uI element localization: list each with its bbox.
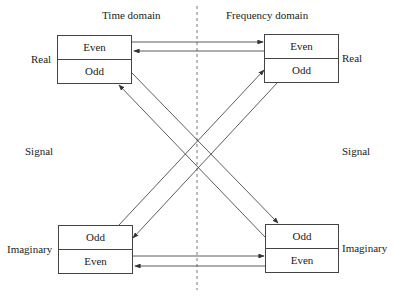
time-real-box: Even Odd xyxy=(57,35,132,84)
freq-real-box: Even Odd xyxy=(264,34,339,83)
time-domain-header: Time domain xyxy=(102,10,161,21)
left-signal-label: Signal xyxy=(25,146,53,157)
time-real-even: Even xyxy=(58,36,131,60)
freq-real-even: Even xyxy=(265,35,338,59)
freq-imag-even: Even xyxy=(266,249,338,273)
right-signal-label: Signal xyxy=(342,146,370,157)
right-real-label: Real xyxy=(342,53,362,64)
freq-imag-odd: Odd xyxy=(266,225,338,249)
time-imag-odd: Odd xyxy=(59,226,132,250)
freq-imag-box: Odd Even xyxy=(265,224,339,273)
frequency-domain-header: Frequency domain xyxy=(226,10,308,21)
left-real-label: Real xyxy=(31,54,51,65)
time-real-odd: Odd xyxy=(58,60,131,84)
time-imag-even: Even xyxy=(59,250,132,274)
time-imag-box: Odd Even xyxy=(58,225,133,274)
left-imaginary-label: Imaginary xyxy=(7,244,52,255)
right-imaginary-label: Imaginary xyxy=(342,243,387,254)
freq-real-odd: Odd xyxy=(265,59,338,83)
